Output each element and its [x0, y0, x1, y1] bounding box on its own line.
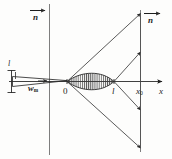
x-axis-label: x [159, 87, 163, 96]
left-aperture-label: l [8, 60, 10, 68]
upper-rays-group [67, 14, 141, 82]
focus-label: l [112, 87, 115, 96]
optics-diagram-figure: n n l wm 0 l x0 x [0, 0, 172, 159]
right-index-label: n [148, 16, 153, 25]
waist-subscript: m [34, 87, 38, 93]
lens-region-group [67, 73, 114, 90]
waist-symbol: w [28, 83, 34, 93]
ray-focus-upper [114, 52, 141, 82]
origin-label: 0 [63, 87, 68, 96]
lower-rays-group [67, 82, 141, 149]
screen-subscript: 0 [140, 90, 143, 96]
beam-waist-label: wm [28, 84, 38, 93]
ray-origin-lower [67, 82, 141, 149]
ray-origin-upper [67, 14, 141, 82]
left-index-label: n [33, 13, 38, 22]
lens-hatched-region [67, 73, 114, 90]
screen-position-label: x0 [136, 87, 143, 96]
diagram-canvas [0, 0, 172, 159]
